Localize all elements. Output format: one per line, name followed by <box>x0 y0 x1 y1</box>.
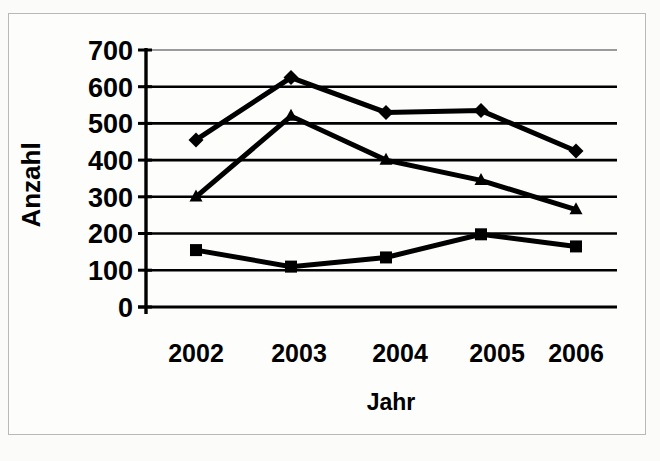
y-axis-title-text: Anzahl <box>16 142 46 227</box>
x-axis-tick-labels: 2002 2003 2004 2005 2006 <box>168 339 604 367</box>
line-chart: 700 600 500 400 300 200 100 0 <box>0 0 660 461</box>
y-tick-label-700: 700 <box>88 36 133 66</box>
x-tick-label-2003: 2003 <box>271 339 327 367</box>
y-axis-title: Anzahl <box>16 142 46 227</box>
x-tick-label-2004: 2004 <box>372 339 428 367</box>
x-tick-label-2006: 2006 <box>548 339 604 367</box>
data-point-square-2004 <box>380 251 392 263</box>
y-tick-label-100: 100 <box>88 256 133 286</box>
y-tick-label-300: 300 <box>88 183 133 213</box>
x-axis-title: Jahr <box>367 389 416 415</box>
data-point-diamond-2006 <box>569 143 584 158</box>
y-tick-label-500: 500 <box>88 109 133 139</box>
x-tick-label-2002: 2002 <box>168 339 224 367</box>
series-1-diamond <box>189 70 584 158</box>
data-point-square-2002 <box>190 244 202 256</box>
data-point-square-2005 <box>475 228 487 240</box>
data-point-square-2003 <box>285 261 297 273</box>
data-point-triangle-2003 <box>285 109 298 121</box>
page-background: 700 600 500 400 300 200 100 0 <box>0 0 660 461</box>
y-tick-label-0: 0 <box>118 293 133 323</box>
data-point-square-2006 <box>570 240 582 252</box>
y-tick-label-400: 400 <box>88 146 133 176</box>
data-point-diamond-2005 <box>474 103 489 118</box>
y-axis-tick-labels: 700 600 500 400 300 200 100 0 <box>88 36 133 323</box>
y-tick-label-600: 600 <box>88 73 133 103</box>
y-tick-label-200: 200 <box>88 219 133 249</box>
data-point-diamond-2004 <box>379 105 394 120</box>
x-tick-label-2005: 2005 <box>469 339 525 367</box>
data-series-layer <box>189 70 584 273</box>
series-3-square <box>190 228 582 272</box>
